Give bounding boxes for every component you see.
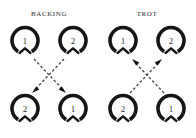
- link-bottom-left-to-top-right: [130, 59, 162, 93]
- panel-title-backing: Backing: [0, 7, 98, 18]
- link-top-right-to-bottom-left: [32, 59, 64, 93]
- hoof-backing-top-left: 1: [12, 28, 38, 53]
- hoof-label: 1: [121, 36, 126, 46]
- hoof-backing-top-right: 2: [60, 28, 86, 53]
- link-group-trot: [130, 59, 164, 93]
- gait-diagram-figure: Backing 1: [0, 0, 196, 138]
- hoof-label: 1: [71, 104, 76, 114]
- hoof-label: 2: [71, 36, 76, 46]
- hoof-trot-top-left: 1: [110, 28, 136, 53]
- link-group-backing: [32, 59, 66, 93]
- panel-title-trot: Trot: [98, 7, 196, 18]
- hoof-label: 1: [169, 104, 174, 114]
- hoof-label: 2: [169, 36, 174, 46]
- hoof-label: 1: [23, 36, 28, 46]
- gait-diagram-trot: 1 2 2 1: [98, 24, 196, 136]
- hoof-trot-bottom-right: 1: [158, 96, 184, 121]
- hoof-label: 2: [121, 104, 126, 114]
- hoof-backing-bottom-left: 2: [12, 96, 38, 121]
- panel-backing: Backing 1: [0, 0, 98, 138]
- hoof-trot-top-right: 2: [158, 28, 184, 53]
- panel-trot: Trot 1: [98, 0, 196, 138]
- link-top-left-to-bottom-right: [34, 59, 66, 93]
- hoof-backing-bottom-right: 1: [60, 96, 86, 121]
- hoof-trot-bottom-left: 2: [110, 96, 136, 121]
- hoof-label: 2: [23, 104, 28, 114]
- gait-diagram-backing: 1 2 2 1: [0, 24, 98, 136]
- link-bottom-right-to-top-left: [132, 59, 164, 93]
